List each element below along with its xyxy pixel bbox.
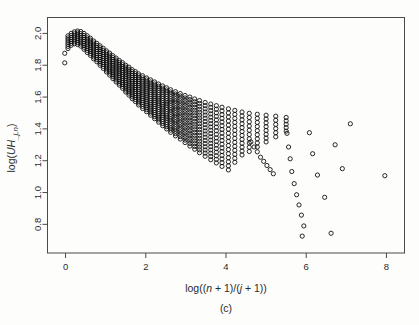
x-tick-label: 8 <box>384 261 389 272</box>
figure-caption: (c) <box>220 302 232 314</box>
y-tick-label: 1.8 <box>32 59 43 72</box>
x-tick-label: 0 <box>63 261 68 272</box>
y-tick-label: 1.6 <box>32 90 43 103</box>
x-tick-label: 2 <box>143 261 148 272</box>
x-tick-label: 6 <box>304 261 309 272</box>
plot-canvas: 02468 0.81.01.21.41.61.82.0 log((n + 1)/… <box>0 0 419 325</box>
y-tick-label: 1.2 <box>32 154 43 167</box>
x-tick-label: 4 <box>223 261 228 272</box>
y-tick-label: 1.4 <box>32 122 43 135</box>
x-axis-label: log((n + 1)/(j + 1)) <box>185 282 267 294</box>
y-tick-label: 0.8 <box>32 218 43 231</box>
y-tick-label: 2.0 <box>32 27 43 40</box>
figure-background <box>0 0 419 325</box>
scatter-plot-figure: 02468 0.81.01.21.41.61.82.0 log((n + 1)/… <box>0 0 419 325</box>
y-tick-label: 1.0 <box>32 186 43 199</box>
